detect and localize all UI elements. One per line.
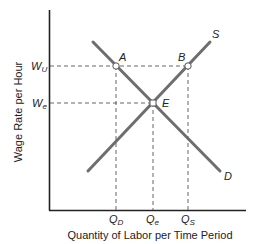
- label-s: S: [212, 28, 220, 40]
- ytick-we: We: [32, 97, 47, 111]
- labor-market-chart: A B E S D WU We QD Qe QS Quantity of Lab…: [0, 0, 257, 244]
- xtick-qs: QS: [181, 213, 196, 227]
- point-a-marker: [113, 63, 119, 69]
- xtick-qd: QD: [109, 213, 124, 227]
- point-e-marker: [150, 100, 156, 106]
- xtick-qe: Qe: [146, 213, 160, 227]
- label-e: E: [162, 97, 170, 109]
- label-d: D: [224, 170, 232, 182]
- label-b: B: [178, 51, 185, 63]
- ytick-wu: WU: [31, 60, 47, 74]
- x-axis-title: Quantity of Labor per Time Period: [67, 229, 232, 241]
- point-b-marker: [185, 63, 191, 69]
- supply-curve: [88, 42, 210, 171]
- y-axis-title: Wage Rate per Hour: [12, 61, 24, 162]
- label-a: A: [118, 51, 126, 63]
